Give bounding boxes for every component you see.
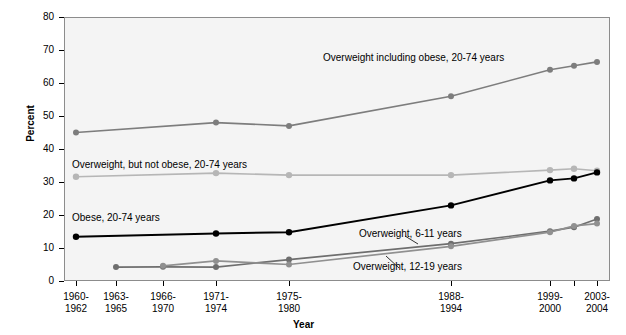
series-label-overweight-12-19: Overweight, 12-19 years bbox=[353, 261, 462, 272]
x-tick-label: 1999-2000 bbox=[527, 291, 573, 314]
x-tick-label: 1971-1974 bbox=[193, 291, 239, 314]
x-tick-label: 1966-1970 bbox=[140, 291, 186, 314]
y-tick-mark bbox=[59, 50, 64, 51]
y-tick-mark bbox=[59, 281, 64, 282]
y-tick-mark bbox=[59, 17, 64, 18]
x-tick-mark bbox=[116, 281, 117, 286]
x-tick-label: 1963-1965 bbox=[93, 291, 139, 314]
x-tick-mark bbox=[289, 281, 290, 286]
x-tick-mark bbox=[451, 281, 452, 286]
x-tick-label: 2003-2004 bbox=[574, 291, 620, 314]
y-tick-mark bbox=[59, 83, 64, 84]
series-label-overweight-6-11: Overweight, 6-11 years bbox=[359, 228, 462, 239]
series-label-overweight-including-obese: Overweight including obese, 20-74 years bbox=[323, 52, 504, 63]
x-tick-mark bbox=[163, 281, 164, 286]
y-tick-label: 0 bbox=[28, 276, 54, 286]
y-tick-mark bbox=[59, 149, 64, 150]
series-label-overweight-not-obese: Overweight, but not obese, 20-74 years bbox=[72, 159, 247, 170]
x-tick-mark bbox=[574, 281, 575, 286]
x-axis-title: Year bbox=[293, 319, 314, 330]
y-tick-mark bbox=[59, 116, 64, 117]
y-tick-label: 50 bbox=[28, 111, 54, 121]
y-tick-label: 70 bbox=[28, 45, 54, 55]
y-tick-mark bbox=[59, 182, 64, 183]
series-label-obese: Obese, 20-74 years bbox=[72, 212, 160, 223]
y-tick-label: 20 bbox=[28, 210, 54, 220]
x-tick-mark bbox=[76, 281, 77, 286]
x-tick-label: 1988-1994 bbox=[428, 291, 474, 314]
y-tick-mark bbox=[59, 215, 64, 216]
y-tick-label: 40 bbox=[28, 144, 54, 154]
y-tick-mark bbox=[59, 248, 64, 249]
chart-container: Percent Year 01020304050607080 1960-1962… bbox=[0, 0, 626, 335]
y-tick-label: 80 bbox=[28, 12, 54, 22]
y-tick-label: 10 bbox=[28, 243, 54, 253]
y-tick-label: 60 bbox=[28, 78, 54, 88]
x-tick-mark bbox=[550, 281, 551, 286]
x-tick-mark bbox=[216, 281, 217, 286]
x-tick-label: 1975-1980 bbox=[266, 291, 312, 314]
y-tick-label: 30 bbox=[28, 177, 54, 187]
x-tick-mark bbox=[597, 281, 598, 286]
